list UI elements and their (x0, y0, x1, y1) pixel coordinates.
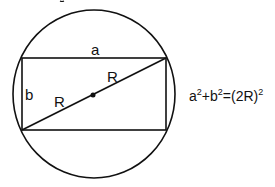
eq-exp-3: 2 (258, 87, 263, 97)
eq-plus-b: +b (202, 88, 218, 104)
eq-base-a: a (189, 88, 197, 104)
eq-rhs: =(2R) (223, 88, 258, 104)
label-radius-upper: R (107, 69, 118, 84)
label-side-b: b (25, 87, 33, 102)
cropped-fragment (60, 1, 64, 2)
pythagorean-equation: a2+b2=(2R)2 (189, 87, 263, 104)
center-point (91, 93, 96, 98)
label-radius-lower: R (54, 94, 65, 109)
label-side-a: a (91, 42, 99, 57)
